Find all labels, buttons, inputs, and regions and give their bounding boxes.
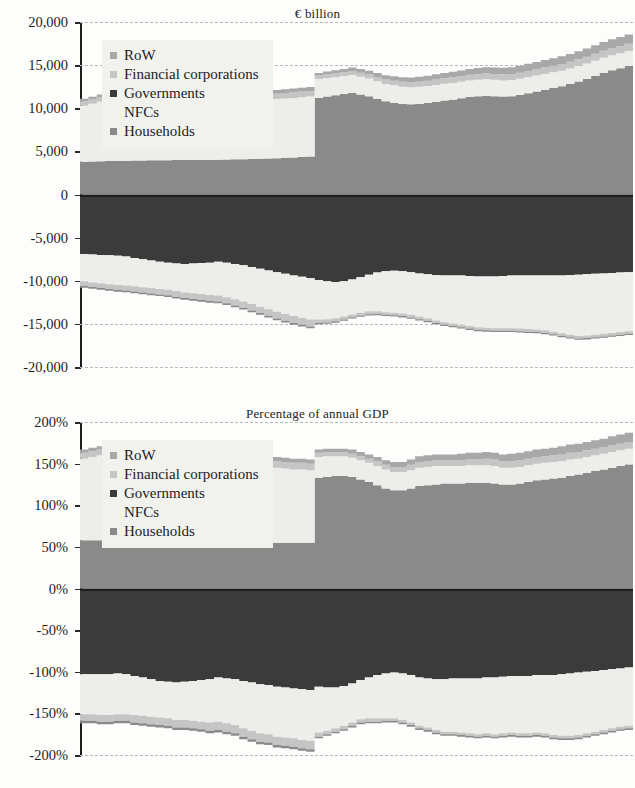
legend-item-households: Households [110,122,259,141]
zero-baseline [80,195,633,197]
legend-item-governments: Governments [110,484,259,503]
legend-swatch-icon [110,471,117,478]
legend-swatch-icon [110,71,117,78]
grid-line [80,367,633,368]
y-tick-label: 20,000 [28,15,68,30]
legend-label: Financial corporations [124,67,259,82]
y-tick-label: -15,000 [23,317,68,332]
legend-label: NFCs [124,505,159,520]
grid-line [80,755,633,756]
legend-swatch-icon [110,90,117,97]
legend-swatch-icon [110,528,117,535]
plot-area-eur-billion: 20,00015,00010,0005,0000-5,000-10,000-15… [0,22,635,407]
y-tick-label: 5,000 [35,144,68,159]
legend-swatch-icon [110,128,117,135]
legend-swatch-icon [110,509,117,516]
chart-panel-eur-billion: € billion 20,00015,00010,0005,0000-5,000… [0,0,635,400]
plot-area-pct-gdp: 200%150%100%50%0%-50%-100%-150%-200% 200… [0,422,635,788]
legend-item-row: RoW [110,446,259,465]
y-tick-label: 100% [34,498,68,513]
y-tick-label: 15,000 [28,58,68,73]
y-tick-label: -20,000 [23,360,68,375]
area-governments-negative [80,589,633,691]
chart-panel-pct-gdp: Percentage of annual GDP 200%150%100%50%… [0,400,635,788]
legend-swatch-icon [110,452,117,459]
y-tick-label: 150% [34,456,68,471]
legend-item-row: RoW [110,46,259,65]
y-tick-label: -150% [29,706,68,721]
y-tick-label: 10,000 [28,101,68,116]
y-tick-label: -200% [29,748,68,763]
legend-label: Households [124,524,195,539]
legend-label: Governments [124,86,205,101]
legend-swatch-icon [110,52,117,59]
legend-label: RoW [124,48,156,63]
zero-baseline [80,589,633,591]
legend-item-financial-corporations: Financial corporations [110,65,259,84]
legend-item-financial-corporations: Financial corporations [110,465,259,484]
y-tick-label: -50% [37,623,68,638]
legend-swatch-icon [110,109,117,116]
legend-label: Governments [124,486,205,501]
legend-label: Households [124,124,195,139]
legend-item-nfcs: NFCs [110,503,259,522]
legend-pct-gdp: RoWFinancial corporationsGovernmentsNFCs… [102,440,273,548]
legend-item-governments: Governments [110,84,259,103]
legend-item-households: Households [110,522,259,541]
legend-label: NFCs [124,105,159,120]
legend-swatch-icon [110,490,117,497]
legend-eur-billion: RoWFinancial corporationsGovernmentsNFCs… [102,40,273,148]
y-tick-label: 50% [41,540,68,555]
y-tick-label: -5,000 [31,230,68,245]
legend-label: Financial corporations [124,467,259,482]
legend-item-nfcs: NFCs [110,103,259,122]
y-tick-label: -100% [29,665,68,680]
legend-label: RoW [124,448,156,463]
y-tick-label: 200% [34,415,68,430]
y-tick-label: -10,000 [23,274,68,289]
